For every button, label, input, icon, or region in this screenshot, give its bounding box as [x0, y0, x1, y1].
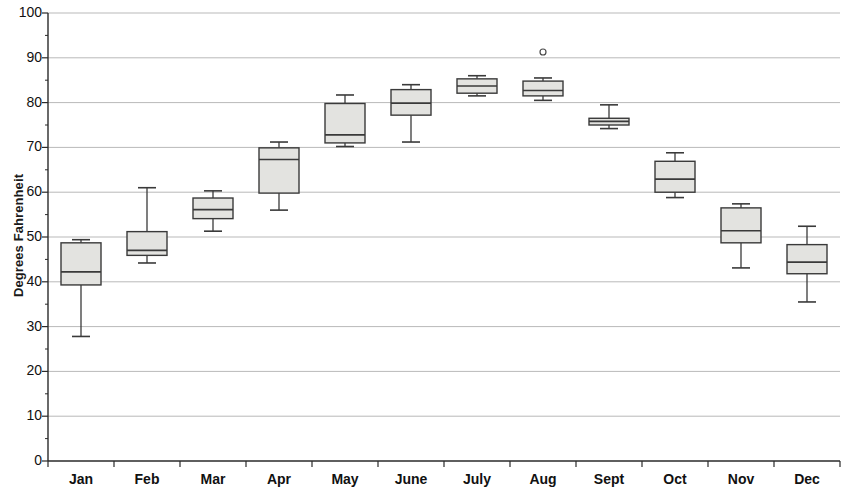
y-axis-tick-label: 0: [0, 452, 42, 468]
box-iqr: [325, 103, 365, 142]
y-axis-tick-label: 60: [0, 183, 42, 199]
plot-area: [0, 0, 844, 495]
box-iqr: [787, 245, 827, 274]
x-axis-tick-label-apr: Apr: [267, 471, 291, 487]
x-axis-tick-label-dec: Dec: [794, 471, 820, 487]
x-axis-tick-label-jan: Jan: [69, 471, 93, 487]
y-axis-tick-label: 20: [0, 362, 42, 378]
box-plot-group: [523, 49, 563, 100]
x-axis-tick-label-mar: Mar: [201, 471, 226, 487]
box-iqr: [127, 232, 167, 256]
box-plot-group: [457, 76, 497, 96]
box-plot-group: [655, 153, 695, 198]
box-iqr: [193, 198, 233, 219]
box-iqr: [523, 81, 563, 96]
box-plot-group: [589, 105, 629, 129]
x-axis-tick-label-sept: Sept: [594, 471, 624, 487]
box-iqr: [655, 161, 695, 192]
box-plot-group: [259, 142, 299, 210]
y-axis-tick-label: 90: [0, 49, 42, 65]
box-iqr: [259, 148, 299, 193]
x-axis-tick-label-nov: Nov: [728, 471, 754, 487]
box-plot-group: [391, 85, 431, 142]
box-plot-group: [787, 226, 827, 302]
box-plot-group: [193, 191, 233, 231]
box-iqr: [61, 243, 101, 285]
x-axis-tick-label-july: July: [463, 471, 491, 487]
x-axis-tick-label-may: May: [331, 471, 358, 487]
box-plot-group: [127, 188, 167, 263]
box-plot-group: [61, 240, 101, 337]
x-axis-tick-label-aug: Aug: [529, 471, 556, 487]
y-axis-tick-label: 70: [0, 138, 42, 154]
y-axis-tick-label: 100: [0, 4, 42, 20]
y-axis-tick-label: 40: [0, 273, 42, 289]
y-axis-tick-label: 30: [0, 318, 42, 334]
box-iqr: [721, 208, 761, 243]
y-axis-tick-label: 80: [0, 94, 42, 110]
x-axis-tick-label-oct: Oct: [663, 471, 686, 487]
x-axis-tick-label-june: June: [395, 471, 428, 487]
box-plot-group: [721, 204, 761, 268]
outlier-point: [540, 49, 546, 55]
box-plot-chart: Degrees Fahrenheit 010203040506070809010…: [0, 0, 844, 495]
x-axis-tick-label-feb: Feb: [135, 471, 160, 487]
y-axis-tick-label: 10: [0, 407, 42, 423]
y-axis-tick-label: 50: [0, 228, 42, 244]
